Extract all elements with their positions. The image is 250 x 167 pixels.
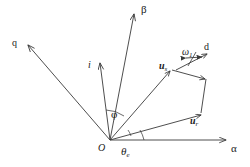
- origin-label: O: [98, 143, 105, 153]
- u-r-vector: [110, 115, 201, 140]
- u-r-subscript: r: [196, 120, 199, 128]
- quad-side-top: [172, 70, 205, 79]
- omega-symbol: ω: [182, 46, 189, 57]
- u-s-subscript: s: [165, 65, 168, 73]
- current-vector-i: [100, 63, 110, 140]
- u-s-label: us: [159, 56, 167, 73]
- u-s-vector: [110, 71, 170, 140]
- theta-subscript: e: [126, 151, 129, 159]
- q-axis-vector: [28, 45, 110, 140]
- beta-axis-label: β: [141, 4, 147, 15]
- omega-label: ω1: [182, 42, 193, 59]
- q-axis-label: q: [12, 38, 17, 48]
- alpha-axis-label: α: [231, 143, 237, 154]
- vector-diagram-figure: β α O q i us ur ω1 d φ θe: [0, 0, 250, 167]
- beta-axis-line: [110, 14, 134, 140]
- phi-angle-label: φ: [111, 109, 117, 120]
- omega-subscript: 1: [189, 51, 193, 59]
- u-r-label: ur: [190, 111, 198, 128]
- theta-e-angle-label: θe: [121, 142, 130, 159]
- current-vector-label: i: [88, 60, 91, 70]
- quad-side-right: [201, 79, 206, 113]
- d-axis-label: d: [204, 42, 209, 52]
